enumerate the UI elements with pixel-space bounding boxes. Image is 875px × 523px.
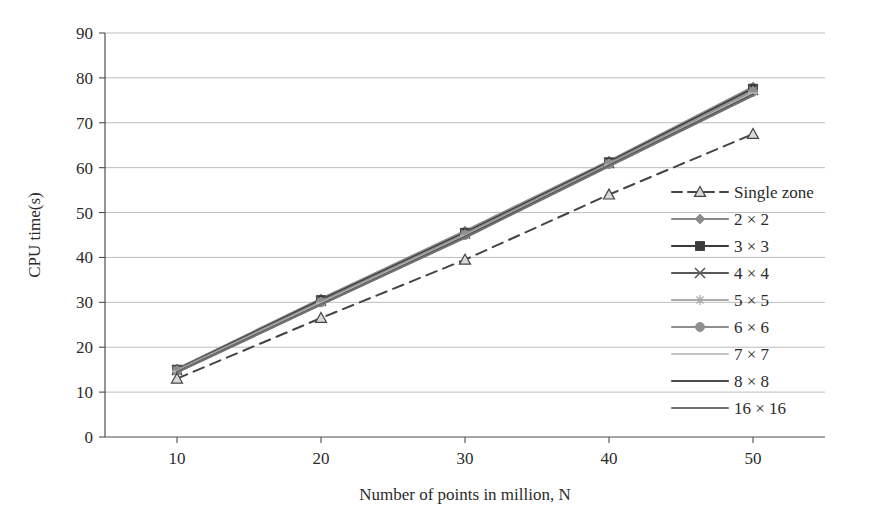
x-tick-label: 10 (169, 449, 186, 468)
data-point-marker-square (696, 242, 705, 251)
y-tick-label: 40 (76, 248, 93, 267)
y-tick-label: 0 (85, 428, 94, 447)
data-point-marker-star (695, 295, 705, 305)
legend-label: 16 × 16 (734, 399, 786, 418)
chart-background (0, 0, 875, 523)
legend-label: 7 × 7 (734, 345, 770, 364)
y-tick-label: 10 (76, 383, 93, 402)
legend-label: 8 × 8 (734, 372, 769, 391)
legend-label: 4 × 4 (734, 264, 770, 283)
cpu-time-line-chart: 0102030405060708090 1020304050 CPU time(… (0, 0, 875, 523)
y-tick-label: 60 (76, 159, 93, 178)
y-tick-label: 50 (76, 204, 93, 223)
x-tick-label: 30 (457, 449, 474, 468)
legend-label: Single zone (734, 183, 814, 202)
y-axis-title: CPU time(s) (25, 192, 44, 277)
y-tick-label: 70 (76, 114, 93, 133)
legend-label: 3 × 3 (734, 237, 769, 256)
legend-label: 5 × 5 (734, 291, 769, 310)
y-tick-label: 30 (76, 293, 93, 312)
y-tick-label: 90 (76, 24, 93, 43)
y-tick-label: 20 (76, 338, 93, 357)
legend-label: 2 × 2 (734, 210, 769, 229)
x-tick-label: 50 (745, 449, 762, 468)
chart-container: 0102030405060708090 1020304050 CPU time(… (0, 0, 875, 523)
x-tick-label: 40 (601, 449, 618, 468)
x-tick-label: 20 (313, 449, 330, 468)
legend-label: 6 × 6 (734, 318, 769, 337)
y-tick-label: 80 (76, 69, 93, 88)
data-point-marker-circle (696, 323, 705, 332)
x-axis-title: Number of points in million, N (359, 485, 571, 504)
